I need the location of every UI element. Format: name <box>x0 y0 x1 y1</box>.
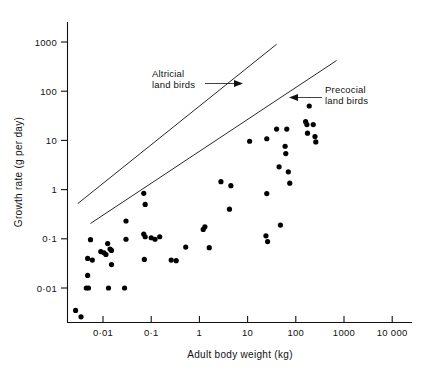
data-point <box>311 122 316 127</box>
x-tick-label-3: 10 <box>242 327 253 338</box>
x-axis-title: Adult body weight (kg) <box>187 349 293 360</box>
trend-line-precocial-land-birds <box>90 61 336 224</box>
data-point <box>283 151 288 156</box>
data-point <box>265 239 270 244</box>
y-tick-label-1: 0·1 <box>42 233 57 244</box>
data-point <box>106 285 111 290</box>
data-point <box>183 244 188 249</box>
data-point <box>228 183 233 188</box>
data-point <box>143 234 148 239</box>
y-axis-ticks: 0·010·11101001000 <box>35 37 68 294</box>
data-point <box>122 285 127 290</box>
data-point <box>218 179 223 184</box>
precocial-annotation: Precocial land birds <box>289 84 368 106</box>
data-point <box>307 103 312 108</box>
data-point <box>263 233 268 238</box>
data-point <box>278 222 283 227</box>
precocial-label-line1: Precocial <box>325 84 366 95</box>
data-point <box>169 257 174 262</box>
data-point <box>304 122 309 127</box>
altricial-arrow-icon <box>234 80 243 87</box>
data-point <box>103 252 108 257</box>
precocial-arrow-icon <box>289 94 298 101</box>
x-tick-label-5: 1000 <box>333 327 355 338</box>
data-point <box>283 144 288 149</box>
altricial-annotation: Altricial land birds <box>152 68 243 90</box>
axes-group <box>67 22 412 323</box>
data-point <box>123 237 128 242</box>
y-axis-title: Growth rate (g per day) <box>13 117 24 227</box>
data-point <box>143 202 148 207</box>
data-point <box>109 248 114 253</box>
data-point <box>264 191 269 196</box>
altricial-label-line2: land birds <box>152 79 195 90</box>
data-point <box>312 134 317 139</box>
data-point <box>174 258 179 263</box>
x-tick-label-1: 0·1 <box>144 327 159 338</box>
y-tick-label-2: 1 <box>51 184 57 195</box>
data-point <box>274 126 279 131</box>
y-tick-label-5: 1000 <box>35 37 57 48</box>
data-point <box>141 191 146 196</box>
data-point <box>85 256 90 261</box>
data-point <box>157 234 162 239</box>
data-point <box>227 207 232 212</box>
data-point <box>305 131 310 136</box>
data-point <box>276 164 281 169</box>
altricial-label-line1: Altricial <box>152 68 184 79</box>
data-points-group <box>73 103 318 319</box>
data-point <box>105 241 110 246</box>
x-axis-ticks: 0·010·1110100100010 000 <box>93 316 408 338</box>
data-point <box>152 237 157 242</box>
scatter-plot-canvas: 0·010·11101001000 0·010·1110100100010 00… <box>0 0 427 374</box>
y-tick-label-0: 0·01 <box>37 283 57 294</box>
data-point <box>207 245 212 250</box>
precocial-label-line2: land birds <box>325 95 368 106</box>
data-point <box>313 139 318 144</box>
data-point <box>86 285 91 290</box>
data-point <box>73 308 78 313</box>
data-point <box>286 169 291 174</box>
data-point <box>142 257 147 262</box>
x-tick-label-4: 100 <box>287 327 304 338</box>
data-point <box>247 139 252 144</box>
data-point <box>90 257 95 262</box>
data-point <box>123 218 128 223</box>
y-tick-label-3: 10 <box>46 135 57 146</box>
data-point <box>284 126 289 131</box>
y-tick-label-4: 100 <box>40 86 57 97</box>
x-tick-label-6: 10 000 <box>377 327 408 338</box>
chart-figure: 0·010·11101001000 0·010·1110100100010 00… <box>0 0 427 374</box>
trend-lines-group <box>78 44 337 223</box>
data-point <box>85 273 90 278</box>
data-point <box>264 136 269 141</box>
data-point <box>109 262 114 267</box>
x-tick-label-2: 1 <box>197 327 203 338</box>
data-point <box>287 181 292 186</box>
data-point <box>78 314 83 319</box>
data-point <box>202 224 207 229</box>
data-point <box>88 237 93 242</box>
x-tick-label-0: 0·01 <box>93 327 113 338</box>
